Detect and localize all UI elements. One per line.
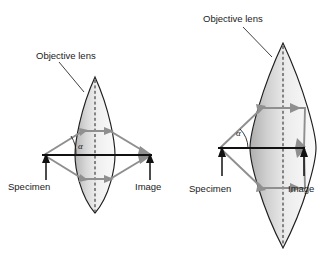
diagram-canvas: α Objective lens Specimen Image — [0, 0, 329, 264]
specimen-label: Specimen — [189, 183, 231, 194]
lens-label-leader — [59, 62, 84, 92]
specimen-label: Specimen — [8, 181, 50, 192]
image-label: Image — [135, 181, 161, 192]
panel-high-numerical-aperture: α Objective lens Specimen Image — [189, 13, 316, 248]
objective-lens-label: Objective lens — [36, 50, 96, 61]
lens-label-leader — [243, 27, 272, 57]
aperture-angle-label: α — [78, 141, 83, 151]
aperture-angle-arc — [240, 129, 248, 148]
aperture-angle-label: α — [236, 128, 241, 138]
ray-arrowhead-upper-out — [138, 146, 151, 154]
panel-low-numerical-aperture: α Objective lens Specimen Image — [8, 50, 161, 213]
image-label: Image — [288, 183, 314, 194]
optics-figure: α Objective lens Specimen Image — [0, 0, 329, 264]
objective-lens-label: Objective lens — [203, 13, 263, 24]
